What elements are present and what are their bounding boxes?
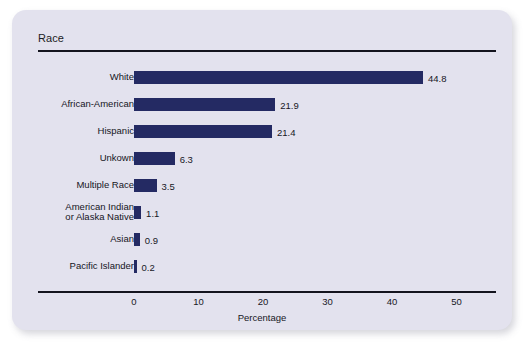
x-axis-tick-label: 0 [131,296,136,307]
bar [134,125,272,138]
bar-row: White44.8 [12,64,512,91]
bar-row: Pacific Islander0.2 [12,253,512,280]
x-axis-line [38,291,496,293]
bar-value-label: 0.2 [142,261,155,274]
bar-category-label: White [0,72,134,83]
bar [134,98,275,111]
bar-value-label: 44.8 [428,72,447,85]
bar-category-label: Asian [0,234,134,245]
bar-row: Multiple Race3.5 [12,172,512,199]
bar-category-label: Pacific Islander [0,261,134,272]
x-axis-tick-label: 30 [322,296,333,307]
bar-category-label: Multiple Race [0,180,134,191]
x-axis-tick-label: 50 [451,296,462,307]
bar [134,179,157,192]
x-axis-tick-label: 40 [387,296,398,307]
bar-category-label: Unkown [0,153,134,164]
bar [134,152,175,165]
bar-category-label: American Indian or Alaska Native [0,202,134,223]
x-axis-tick-label: 10 [193,296,204,307]
bar-value-label: 1.1 [146,207,159,220]
bar [134,206,141,219]
bar [134,71,423,84]
x-axis-tick-label: 20 [258,296,269,307]
bar-row: Hispanic21.4 [12,118,512,145]
bar-row: American Indian or Alaska Native1.1 [12,199,512,226]
bar-value-label: 21.9 [280,99,299,112]
bar-row: African-American21.9 [12,91,512,118]
bar-chart-plot-area: White44.8African-American21.9Hispanic21.… [12,10,512,330]
bar-category-label: African-American [0,99,134,110]
bar [134,233,140,246]
bar-category-label: Hispanic [0,126,134,137]
x-axis-title: Percentage [12,312,512,323]
chart-card: Race White44.8African-American21.9Hispan… [12,10,512,330]
bar-row: Asian0.9 [12,226,512,253]
bar-value-label: 6.3 [180,153,193,166]
bar [134,260,137,273]
bar-value-label: 3.5 [162,180,175,193]
bar-value-label: 0.9 [145,234,158,247]
bar-value-label: 21.4 [277,126,296,139]
bar-row: Unkown6.3 [12,145,512,172]
